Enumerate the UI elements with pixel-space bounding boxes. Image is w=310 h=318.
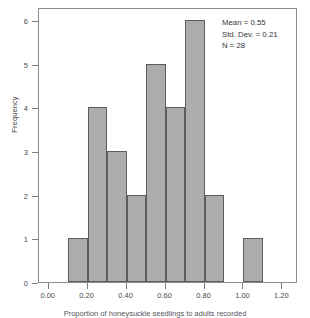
stat-std-dev: Std. Dev. = 0.21 (222, 29, 278, 41)
histogram-bar (185, 20, 204, 282)
stat-mean: Mean = 0.55 (222, 17, 278, 29)
x-axis-caption: Proportion of honeysuckle seedlings to a… (0, 309, 310, 318)
y-axis-tick-label: 0 (0, 279, 28, 288)
x-axis-tick-label: 0.60 (143, 291, 187, 300)
x-axis-tick (242, 283, 243, 289)
histogram-bar (243, 238, 262, 282)
y-axis-tick-label: 4 (0, 104, 28, 113)
x-axis-tick (281, 283, 282, 289)
x-axis-tick-label: 1.00 (220, 291, 264, 300)
x-axis-tick (87, 283, 88, 289)
histogram-bar (146, 64, 165, 282)
y-axis-tick-label: 1 (0, 235, 28, 244)
x-axis-tick (48, 283, 49, 289)
x-axis-tick (165, 283, 166, 289)
x-axis-tick-label: 0.00 (26, 291, 70, 300)
statistics-annotation: Mean = 0.55 Std. Dev. = 0.21 N = 28 (222, 17, 278, 52)
x-axis-tick-label: 0.80 (182, 291, 226, 300)
x-axis-tick (126, 283, 127, 289)
histogram-bar (88, 107, 107, 282)
histogram-bar (107, 151, 126, 282)
x-axis-tick-label: 0.40 (104, 291, 148, 300)
histogram-figure: Frequency 0123456 0.000.200.400.600.801.… (0, 0, 310, 318)
y-axis-tick-label: 6 (0, 17, 28, 26)
y-axis-tick-label: 5 (0, 60, 28, 69)
histogram-bar (127, 195, 146, 282)
histogram-bar (205, 195, 224, 282)
y-axis-tick-label: 3 (0, 148, 28, 157)
x-axis-tick-label: 0.20 (65, 291, 109, 300)
histogram-bar (68, 238, 87, 282)
histogram-bar (166, 107, 185, 282)
y-axis-tick (32, 283, 38, 284)
x-axis-tick-label: 1.20 (259, 291, 303, 300)
y-axis-tick-label: 2 (0, 191, 28, 200)
stat-n: N = 28 (222, 40, 278, 52)
x-axis-tick (204, 283, 205, 289)
